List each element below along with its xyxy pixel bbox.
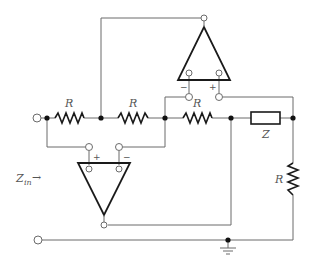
resistor-r4: R — [274, 163, 298, 195]
bottom-opamp: + − — [78, 144, 131, 229]
resistor-r3-label: R — [192, 97, 201, 110]
top-opamp-plus-sign: + — [209, 82, 217, 92]
junctions — [44, 115, 295, 242]
zin-label: Z in → — [15, 171, 41, 187]
top-opamp-minus-terminal — [186, 94, 193, 101]
circuit-diagram: R R R R Z − + + − — [0, 0, 313, 268]
zin-subscript: in — [24, 178, 32, 187]
bottom-opamp-plus-terminal — [86, 144, 93, 151]
top-opamp-minus-sign: − — [180, 82, 188, 92]
bottom-opamp-output-terminal — [101, 222, 107, 228]
top-opamp-output-terminal — [201, 15, 207, 21]
resistor-r2: R — [118, 97, 148, 123]
top-opamp: − + — [178, 15, 230, 101]
ground-icon — [220, 248, 236, 254]
resistor-r4-label: R — [274, 173, 283, 186]
resistor-r3: R — [183, 97, 212, 123]
resistor-r2-label: R — [128, 97, 137, 110]
resistor-r1-label: R — [64, 97, 73, 110]
input-terminal-bottom — [34, 236, 42, 244]
input-terminal-top — [33, 114, 41, 122]
impedance-z-label: Z — [261, 128, 270, 141]
top-opamp-plus-terminal — [216, 94, 223, 101]
bottom-opamp-plus-sign: + — [93, 152, 101, 162]
impedance-z: Z — [251, 112, 280, 141]
bottom-opamp-minus-sign: − — [123, 152, 131, 162]
bottom-opamp-minus-terminal — [116, 144, 123, 151]
resistor-r1: R — [55, 97, 84, 123]
top-opamp-plus-inner — [216, 70, 222, 76]
zin-arrow-icon: → — [32, 171, 41, 184]
wires — [41, 18, 293, 248]
zin-main: Z — [15, 172, 24, 185]
bottom-opamp-minus-inner — [116, 166, 122, 172]
top-opamp-minus-inner — [186, 70, 192, 76]
bottom-opamp-plus-inner — [86, 166, 92, 172]
